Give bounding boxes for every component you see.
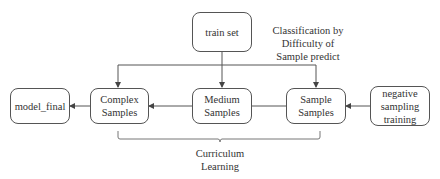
negative-sampling-node: negative sampling training [370, 86, 430, 126]
train-set-node: train set [192, 12, 252, 52]
model-final-label: model_final [15, 100, 66, 113]
model-final-node: model_final [10, 88, 70, 124]
complex-samples-node: Complex Samples [90, 88, 149, 124]
complex-samples-label: Complex Samples [100, 93, 139, 119]
simple-samples-label: Sample Samples [298, 93, 334, 119]
train-set-label: train set [205, 26, 239, 39]
medium-samples-node: Medium Samples [192, 88, 252, 124]
simple-samples-node: Sample Samples [286, 88, 346, 124]
negative-sampling-label: negative sampling training [381, 87, 420, 126]
medium-samples-label: Medium Samples [204, 93, 240, 119]
classification-label: Classification by Difficulty of Sample p… [262, 24, 354, 63]
curriculum-bracket [118, 131, 320, 142]
curriculum-learning-label: Curriculum Learning [175, 147, 265, 173]
